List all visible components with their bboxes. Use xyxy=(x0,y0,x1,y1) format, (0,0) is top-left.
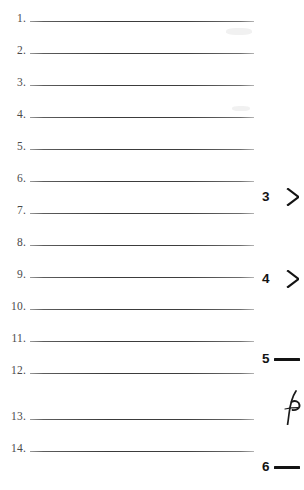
line-number: 1. xyxy=(0,12,28,24)
line-number: 4. xyxy=(0,108,28,120)
numbered-line-row: 12. xyxy=(0,358,258,376)
blank-write-in-rule[interactable] xyxy=(30,373,254,374)
numbered-line-row: 13. xyxy=(0,404,258,422)
numbered-line-row: 3. xyxy=(0,70,258,88)
blank-write-in-rule[interactable] xyxy=(30,21,254,22)
numbered-line-row: 14. xyxy=(0,436,258,454)
line-number: 14. xyxy=(0,442,28,454)
blank-write-in-rule[interactable] xyxy=(30,213,254,214)
blank-write-in-rule[interactable] xyxy=(30,419,254,420)
margin-marker-number: 4 xyxy=(262,272,270,286)
numbered-line-list: 1.2.3.4.5.6.7.8.9.10.11.12.13.14. xyxy=(0,0,260,490)
blank-write-in-rule[interactable] xyxy=(30,451,254,452)
blank-write-in-rule[interactable] xyxy=(30,181,254,182)
margin-marker-number: 5 xyxy=(262,352,270,366)
scanned-page: 1.2.3.4.5.6.7.8.9.10.11.12.13.14. 3456 xyxy=(0,0,304,490)
numbered-line-row: 2. xyxy=(0,38,258,56)
margin-marker-number: 3 xyxy=(262,190,270,204)
chevron-left-icon xyxy=(273,188,299,206)
numbered-line-row: 10. xyxy=(0,294,258,312)
line-number: 6. xyxy=(0,172,28,184)
line-number: 11. xyxy=(0,332,28,344)
line-number: 13. xyxy=(0,410,28,422)
blank-write-in-rule[interactable] xyxy=(30,117,254,118)
line-number: 9. xyxy=(0,268,28,280)
margin-marker: 6 xyxy=(262,457,300,477)
line-number: 10. xyxy=(0,300,28,312)
margin-marker: 4 xyxy=(262,269,299,289)
numbered-line-row: 4. xyxy=(0,102,258,120)
handwritten-mark xyxy=(283,389,304,425)
numbered-line-row: 8. xyxy=(0,230,258,248)
line-number: 5. xyxy=(0,140,28,152)
blank-write-in-rule[interactable] xyxy=(30,277,254,278)
line-number: 3. xyxy=(0,76,28,88)
numbered-line-row: 6. xyxy=(0,166,258,184)
dash-icon xyxy=(274,466,300,469)
line-number: 8. xyxy=(0,236,28,248)
blank-write-in-rule[interactable] xyxy=(30,245,254,246)
chevron-left-icon xyxy=(273,270,299,288)
numbered-line-row: 1. xyxy=(0,6,258,24)
dash-icon xyxy=(274,358,300,361)
line-number: 2. xyxy=(0,44,28,56)
numbered-line-row: 7. xyxy=(0,198,258,216)
blank-write-in-rule[interactable] xyxy=(30,149,254,150)
blank-write-in-rule[interactable] xyxy=(30,341,254,342)
blank-write-in-rule[interactable] xyxy=(30,309,254,310)
margin-marker: 3 xyxy=(262,187,299,207)
numbered-line-row: 11. xyxy=(0,326,258,344)
blank-write-in-rule[interactable] xyxy=(30,85,254,86)
numbered-line-row: 5. xyxy=(0,134,258,152)
blank-write-in-rule[interactable] xyxy=(30,53,254,54)
line-number: 12. xyxy=(0,364,28,376)
line-number: 7. xyxy=(0,204,28,216)
numbered-line-row: 9. xyxy=(0,262,258,280)
margin-marker: 5 xyxy=(262,349,300,369)
margin-marker-number: 6 xyxy=(262,460,270,474)
